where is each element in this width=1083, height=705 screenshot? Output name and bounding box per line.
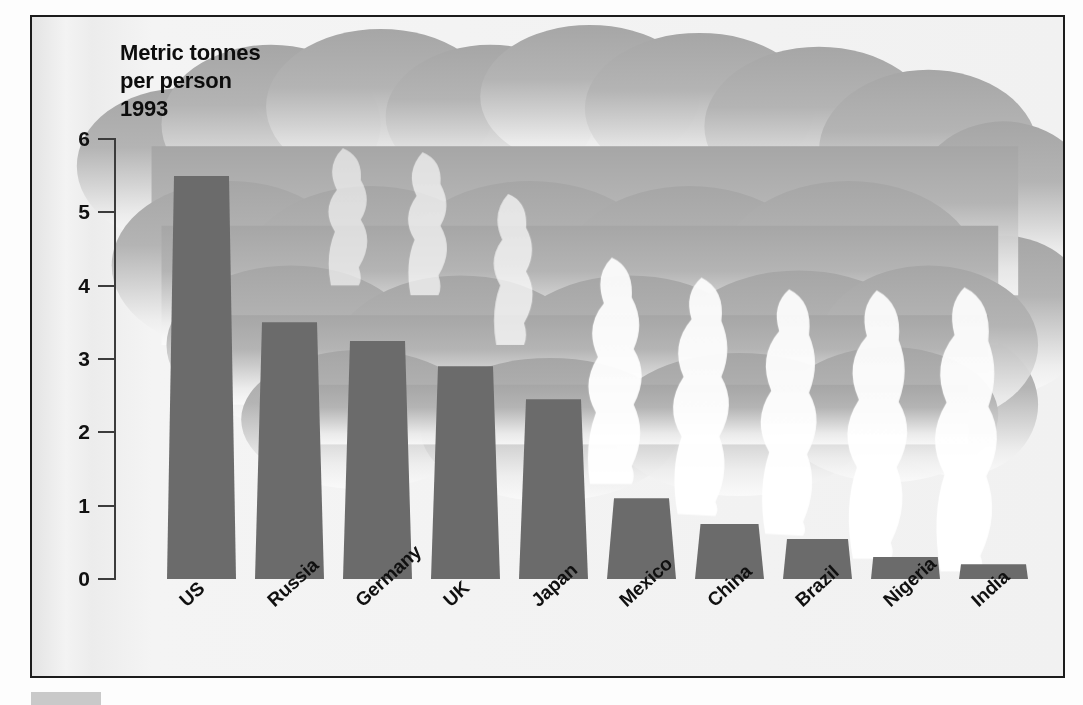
- chart-figure-frame: Metric tonnes per person 1993 0123456 US…: [30, 15, 1065, 678]
- y-tick-label: 0: [50, 568, 90, 589]
- chart-title: Metric tonnes per person 1993: [120, 39, 260, 123]
- y-tick-mark: [98, 431, 116, 433]
- bar-uk: [431, 366, 500, 579]
- bar-japan: [519, 399, 588, 579]
- y-tick-label: 1: [50, 495, 90, 516]
- y-tick-label: 4: [50, 275, 90, 296]
- bar-us: [167, 176, 236, 579]
- plot-area: Metric tonnes per person 1993 0123456 US…: [32, 17, 1065, 678]
- y-tick-label: 6: [50, 128, 90, 149]
- y-tick-label: 5: [50, 201, 90, 222]
- y-tick-mark: [98, 578, 116, 580]
- y-tick-label: 2: [50, 421, 90, 442]
- y-tick-mark: [98, 211, 116, 213]
- y-tick-mark: [98, 505, 116, 507]
- y-tick-mark: [98, 285, 116, 287]
- y-tick-label: 3: [50, 348, 90, 369]
- bar-germany: [343, 341, 412, 579]
- category-label-uk: UK: [439, 577, 474, 611]
- bar-russia: [255, 322, 324, 579]
- category-label-us: US: [175, 578, 209, 612]
- y-tick-mark: [98, 358, 116, 360]
- y-tick-mark: [98, 138, 116, 140]
- figure-page: Metric tonnes per person 1993 0123456 US…: [0, 0, 1083, 705]
- colour-key-swatch: [31, 692, 101, 705]
